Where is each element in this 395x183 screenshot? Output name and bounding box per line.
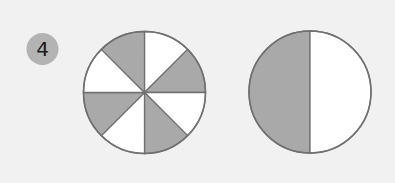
question-number-badge: 4 bbox=[27, 33, 59, 65]
circle-eighths bbox=[84, 32, 206, 154]
half-shaded bbox=[249, 31, 310, 153]
circle-halves bbox=[249, 31, 371, 153]
half-unshaded bbox=[310, 31, 371, 153]
question-number: 4 bbox=[36, 37, 49, 61]
